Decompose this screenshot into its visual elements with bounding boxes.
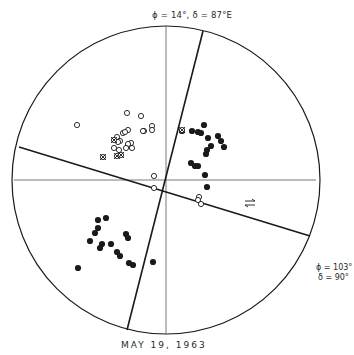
compression-point bbox=[87, 238, 93, 244]
nodal-plane-2-strike-label: ϕ = 103° bbox=[316, 264, 352, 272]
crossed-point bbox=[179, 127, 185, 133]
compression-point bbox=[201, 122, 207, 128]
crossed-point bbox=[118, 152, 124, 158]
compression-point bbox=[108, 241, 114, 247]
crossed-point bbox=[100, 154, 106, 160]
compression-point bbox=[75, 265, 81, 271]
compression-point bbox=[130, 262, 136, 268]
compression-point bbox=[202, 172, 208, 178]
dilatation-point bbox=[122, 129, 127, 134]
date-caption: MAY 19, 1963 bbox=[121, 341, 207, 350]
nodal-line-phi-14 bbox=[127, 31, 203, 330]
dilatation-point bbox=[123, 145, 128, 150]
compression-point bbox=[189, 128, 195, 134]
compression-point bbox=[125, 235, 131, 241]
dilatation-point bbox=[140, 128, 145, 133]
compression-point bbox=[117, 253, 123, 259]
dilatation-point bbox=[129, 145, 134, 150]
compression-point bbox=[92, 230, 98, 236]
compression-point bbox=[150, 259, 156, 265]
compression-point bbox=[103, 215, 109, 221]
nodal-plane-2-dip-label: δ = 90° bbox=[318, 274, 349, 282]
compression-point bbox=[203, 151, 209, 157]
dilatation-point bbox=[138, 113, 143, 118]
slip-arrow-icon bbox=[245, 205, 255, 207]
compression-point bbox=[204, 184, 210, 190]
dilatation-point bbox=[111, 145, 116, 150]
dilatation-point bbox=[116, 147, 121, 152]
compression-point bbox=[95, 217, 101, 223]
dilatation-point bbox=[124, 110, 129, 115]
dilatation-point bbox=[198, 201, 203, 206]
dilatation-point bbox=[149, 127, 154, 132]
compression-point bbox=[218, 138, 224, 144]
compression-point bbox=[205, 135, 211, 141]
compression-point bbox=[198, 130, 204, 136]
compression-point bbox=[195, 163, 201, 169]
crossed-point bbox=[111, 137, 117, 143]
nodal-plane-1-label: ϕ = 14°, δ = 87°E bbox=[152, 11, 232, 20]
compression-point bbox=[221, 144, 227, 150]
dilatation-point bbox=[151, 185, 156, 190]
dilatation-point bbox=[151, 173, 156, 178]
slip-arrow-icon bbox=[245, 199, 255, 201]
nodal-line-phi-103 bbox=[19, 147, 310, 236]
focal-mechanism-diagram: ϕ = 14°, δ = 87°E ϕ = 103° δ = 90° MAY 1… bbox=[0, 0, 354, 355]
stereonet-plot bbox=[0, 0, 354, 355]
dilatation-point bbox=[74, 122, 79, 127]
compression-point bbox=[97, 245, 103, 251]
